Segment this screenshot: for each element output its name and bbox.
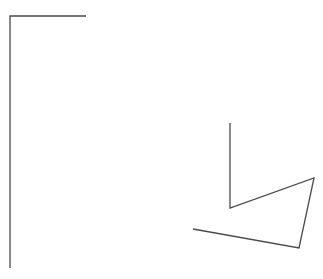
right-polyline xyxy=(193,123,314,248)
diagram-canvas xyxy=(0,0,323,279)
left-bracket-line xyxy=(10,16,86,268)
